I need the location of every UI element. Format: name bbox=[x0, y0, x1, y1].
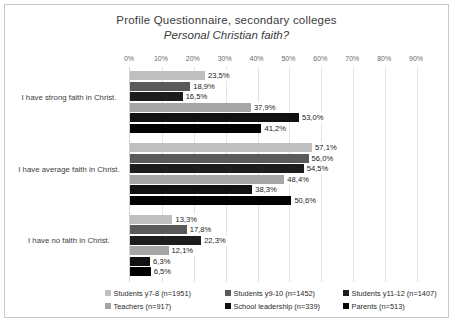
bar-value-label: 18,9% bbox=[191, 81, 217, 92]
chart-container: Profile Questionnaire, secondary college… bbox=[4, 4, 449, 318]
legend-swatch bbox=[343, 303, 349, 309]
bar bbox=[130, 113, 299, 122]
chart-title-line-2: Personal Christian faith? bbox=[5, 28, 448, 43]
x-axis-tick: 10% bbox=[154, 55, 168, 62]
x-axis-tick-labels: 0%10%20%30%40%50%60%70%80%90% bbox=[129, 55, 432, 67]
legend-item[interactable]: Students y9-10 (n=1452) bbox=[225, 289, 315, 299]
x-axis-tick: 70% bbox=[345, 55, 359, 62]
bar bbox=[130, 267, 151, 276]
legend-label: Teachers (n=917) bbox=[114, 302, 172, 311]
bar-value-label: 38,3% bbox=[253, 184, 279, 195]
bar-value-label: 6,3% bbox=[151, 256, 172, 267]
x-axis-tick: 40% bbox=[250, 55, 264, 62]
x-axis-tick: 80% bbox=[377, 55, 391, 62]
bar-value-label: 53,0% bbox=[300, 112, 326, 123]
bar-value-label: 41,2% bbox=[262, 123, 288, 134]
bar-value-label: 22,3% bbox=[202, 235, 228, 246]
legend-swatch bbox=[225, 303, 231, 309]
bar bbox=[130, 175, 284, 184]
gridline bbox=[385, 67, 386, 282]
legend-label: Students y9-10 (n=1452) bbox=[234, 289, 316, 298]
bar-value-label: 13,3% bbox=[173, 214, 199, 225]
bar bbox=[130, 246, 169, 255]
bar-value-label: 57,1% bbox=[313, 142, 339, 153]
gridline bbox=[353, 67, 354, 282]
bar bbox=[130, 143, 312, 152]
gridline bbox=[321, 67, 322, 282]
bar-value-label: 17,8% bbox=[188, 224, 214, 235]
legend-swatch bbox=[105, 290, 111, 296]
bar bbox=[130, 154, 309, 163]
bar bbox=[130, 185, 252, 194]
x-axis-tick: 50% bbox=[281, 55, 295, 62]
bar bbox=[130, 92, 183, 101]
legend-label: School leadership (n=339) bbox=[234, 302, 321, 311]
chart-title: Profile Questionnaire, secondary college… bbox=[5, 13, 448, 43]
bar-value-label: 37,9% bbox=[252, 102, 278, 113]
bar-value-label: 12,1% bbox=[170, 245, 196, 256]
bar bbox=[130, 103, 251, 112]
legend-swatch bbox=[343, 290, 349, 296]
legend-swatch bbox=[105, 303, 111, 309]
legend-label: Students y7-8 (n=1951) bbox=[114, 289, 191, 298]
bar bbox=[130, 71, 205, 80]
bar bbox=[130, 124, 261, 133]
x-axis-tick: 30% bbox=[218, 55, 232, 62]
bar-value-label: 23,5% bbox=[206, 70, 232, 81]
x-axis-tick: 0% bbox=[124, 55, 134, 62]
bar bbox=[130, 225, 187, 234]
chart-legend: Students y7-8 (n=1951)Students y9-10 (n=… bbox=[65, 289, 410, 317]
category-label: I have average faith in Christ. bbox=[13, 165, 125, 175]
gridline bbox=[417, 67, 418, 282]
plot-area: 23,5%18,9%16,5%37,9%53,0%41,2%57,1%56,0%… bbox=[129, 67, 432, 282]
legend-item[interactable]: Students y7-8 (n=1951) bbox=[105, 289, 191, 299]
chart-title-line-1: Profile Questionnaire, secondary college… bbox=[5, 13, 448, 28]
legend-swatch bbox=[225, 290, 231, 296]
category-label: I have no faith in Christ. bbox=[13, 236, 125, 246]
bar bbox=[130, 196, 291, 205]
legend-item[interactable]: Parents (n=513) bbox=[343, 302, 405, 312]
bar-value-label: 16,5% bbox=[184, 91, 210, 102]
legend-item[interactable]: School leadership (n=339) bbox=[225, 302, 320, 312]
x-axis-tick: 60% bbox=[313, 55, 327, 62]
x-axis-tick: 90% bbox=[409, 55, 423, 62]
category-label: I have strong faith in Christ. bbox=[13, 93, 125, 103]
x-axis-tick: 20% bbox=[186, 55, 200, 62]
legend-label: Parents (n=513) bbox=[352, 302, 405, 311]
legend-item[interactable]: Students y11-12 (n=1407) bbox=[343, 289, 437, 299]
bar bbox=[130, 215, 172, 224]
legend-label: Students y11-12 (n=1407) bbox=[352, 289, 437, 298]
bar bbox=[130, 257, 150, 266]
bar-value-label: 48,4% bbox=[285, 174, 311, 185]
bar-value-label: 54,5% bbox=[305, 163, 331, 174]
bar bbox=[130, 164, 304, 173]
bar bbox=[130, 82, 190, 91]
legend-item[interactable]: Teachers (n=917) bbox=[105, 302, 171, 312]
bar-value-label: 6,5% bbox=[152, 266, 173, 277]
bar bbox=[130, 236, 201, 245]
bar-value-label: 50,6% bbox=[292, 195, 318, 206]
bar-value-label: 56,0% bbox=[310, 153, 336, 164]
